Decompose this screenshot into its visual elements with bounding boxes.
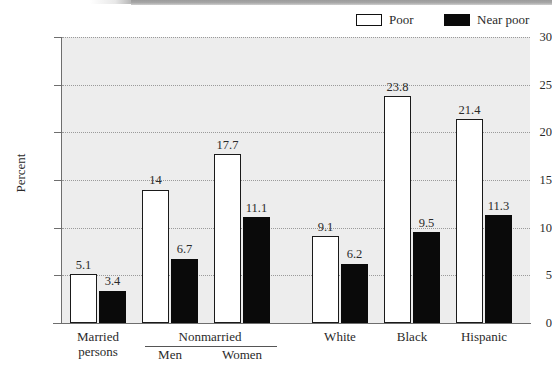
bar-value-men-poor: 14 (134, 173, 178, 188)
bar-value-hispanic-poor: 21.4 (448, 103, 492, 118)
bar-value-women-near-poor: 11.1 (235, 201, 279, 216)
bar-black-near-poor (413, 232, 440, 323)
bar-women-near-poor (243, 217, 270, 323)
category-label-men: Men (134, 347, 206, 362)
grouped-bar-chart: Poor Near poor Percent 30 25 20 15 10 5 … (0, 0, 552, 370)
plot-area: 5.1 3.4 14 6.7 17.7 11.1 9.1 6.2 23.8 9.… (62, 37, 530, 323)
bar-value-men-near-poor: 6.7 (163, 242, 207, 257)
bar-value-white-near-poor: 6.2 (333, 247, 377, 262)
category-label-hispanic: Hispanic (448, 329, 520, 344)
bar-value-women-poor: 17.7 (206, 138, 250, 153)
y-tick-mark-10 (54, 228, 61, 229)
bar-men-near-poor (171, 259, 198, 323)
hollow-square-icon (356, 14, 382, 26)
gridline-25 (62, 85, 530, 86)
category-label-white: White (304, 329, 376, 344)
legend-label-poor: Poor (389, 13, 414, 27)
bar-value-black-near-poor: 9.5 (405, 216, 449, 231)
supergroup-label-nonmarried: Nonmarried (134, 329, 286, 345)
bar-value-married-persons-near-poor: 3.4 (91, 274, 135, 289)
y-tick-mark-5 (54, 275, 61, 276)
y-axis-title: Percent (13, 138, 29, 208)
bar-value-black-poor: 23.8 (376, 80, 420, 95)
gridline-30 (62, 37, 530, 38)
x-axis-line (53, 323, 531, 324)
bar-hispanic-near-poor (485, 215, 512, 323)
bar-white-near-poor (341, 264, 368, 323)
y-tick-mark-30 (54, 37, 61, 38)
bar-value-married-persons-poor: 5.1 (62, 258, 106, 273)
legend-label-near-poor: Near poor (477, 13, 529, 27)
y-tick-mark-25 (54, 85, 61, 86)
y-axis-line (61, 37, 62, 324)
legend-item-near-poor: Near poor (444, 11, 529, 29)
bar-black-poor (384, 96, 411, 323)
category-label-married-persons: Married persons (62, 329, 134, 359)
bar-married-persons-near-poor (99, 291, 126, 323)
bar-hispanic-poor (456, 119, 483, 323)
bar-value-white-poor: 9.1 (304, 220, 348, 235)
category-label-married-line2: persons (62, 344, 134, 359)
category-label-women: Women (206, 347, 278, 362)
y-tick-mark-20 (54, 132, 61, 133)
filled-square-icon (444, 14, 470, 26)
bar-women-poor (214, 154, 241, 323)
chart-legend: Poor Near poor (356, 11, 546, 31)
category-label-married-line1: Married (62, 329, 134, 344)
legend-item-poor: Poor (356, 11, 414, 29)
y-tick-mark-15 (54, 180, 61, 181)
bar-value-hispanic-near-poor: 11.3 (477, 199, 521, 214)
category-label-black: Black (376, 329, 448, 344)
